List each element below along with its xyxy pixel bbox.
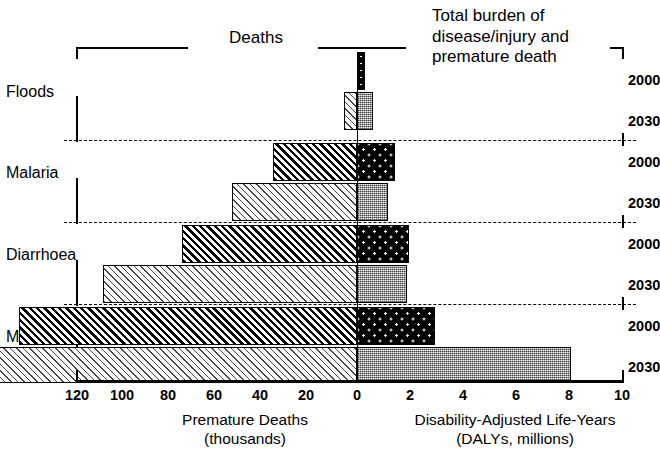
tick-label-6: 6 <box>496 386 536 404</box>
category-label-malaria: Malaria <box>6 163 58 182</box>
right-axis-caption-line2: (DALYs, millions) <box>370 429 660 448</box>
left-axis-caption: Premature Deaths (thousands) <box>120 410 370 448</box>
bar-floods-2000-dalys <box>357 52 365 90</box>
tick-label-100: 100 <box>102 386 142 404</box>
right-bracket-top-tick <box>622 47 624 59</box>
category-label-diarrhoea: Diarrhoea <box>6 245 76 264</box>
year-label-floods-2030: 2030 <box>628 113 660 130</box>
category-label-floods: Floods <box>6 82 54 101</box>
tick-label-60: 60 <box>194 386 234 404</box>
left-bracket-top-tick <box>76 47 78 59</box>
tick-label-4: 4 <box>443 386 483 404</box>
group-separator-1 <box>64 140 636 141</box>
deaths-rule-left <box>76 47 188 49</box>
tick-label-20: 20 <box>286 386 326 404</box>
deaths-rule-right <box>318 47 406 49</box>
group-separator-2 <box>64 222 636 223</box>
deaths-header-label: Deaths <box>196 28 316 48</box>
year-label-floods-2000: 2000 <box>628 72 660 89</box>
year-label-malnutrition-2030: 2030 <box>628 359 660 376</box>
x-axis-right-cap <box>622 370 624 382</box>
bar-diarrhoea-2030-dalys <box>357 265 407 303</box>
chart-canvas: Deaths Total burden of disease/injury an… <box>0 0 660 468</box>
bar-malaria-2000-deaths <box>273 143 357 181</box>
tick-label-0: 0 <box>337 386 377 404</box>
left-bracket-segment-malaria <box>76 178 78 224</box>
bar-floods-2030-dalys <box>357 92 373 130</box>
burden-header-label: Total burden of disease/injury and prema… <box>432 6 607 68</box>
tick-label-2: 2 <box>390 386 430 404</box>
tick-label-40: 40 <box>240 386 280 404</box>
bar-diarrhoea-2000-dalys <box>357 225 409 263</box>
bar-malaria-2000-dalys <box>357 143 395 181</box>
left-axis-caption-line1: Premature Deaths <box>120 410 370 429</box>
bar-malnutrition-2000-dalys <box>357 307 435 345</box>
year-label-malnutrition-2000: 2000 <box>628 318 660 335</box>
bar-diarrhoea-2000-deaths <box>182 225 357 263</box>
x-axis-left-cap <box>76 370 78 382</box>
right-axis-caption: Disability-Adjusted Life-Years (DALYs, m… <box>370 410 660 448</box>
year-label-diarrhoea-2000: 2000 <box>628 236 660 253</box>
tick-label-10: 10 <box>602 386 642 404</box>
left-bracket-segment-floods <box>76 96 78 142</box>
year-label-malaria-2030: 2030 <box>628 195 660 212</box>
left-axis-caption-line2: (thousands) <box>120 429 370 448</box>
bar-floods-2030-deaths <box>344 92 357 130</box>
tick-label-80: 80 <box>148 386 188 404</box>
bar-malnutrition-2030-dalys <box>357 347 571 383</box>
tick-label-8: 8 <box>549 386 589 404</box>
x-axis-line <box>76 380 624 383</box>
group-separator-3 <box>64 304 636 305</box>
bar-malnutrition-2030-deaths <box>0 347 357 383</box>
bar-diarrhoea-2030-deaths <box>103 265 357 303</box>
year-label-diarrhoea-2030: 2030 <box>628 277 660 294</box>
bar-malnutrition-2000-deaths <box>19 307 357 345</box>
bar-malaria-2030-dalys <box>357 183 388 221</box>
tick-label-120: 120 <box>57 386 97 404</box>
year-label-malaria-2000: 2000 <box>628 154 660 171</box>
right-axis-caption-line1: Disability-Adjusted Life-Years <box>370 410 660 429</box>
left-bracket-segment-diarrhoea <box>76 260 78 306</box>
bar-malaria-2030-deaths <box>232 183 357 221</box>
